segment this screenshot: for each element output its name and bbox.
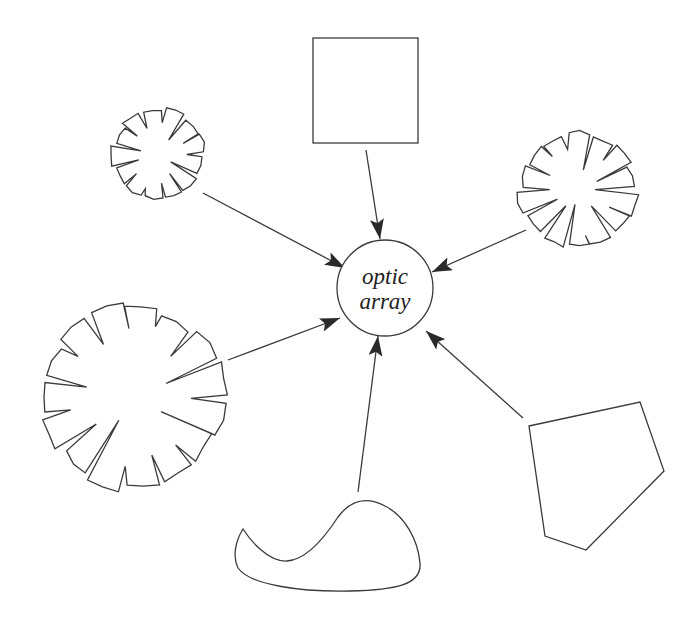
- node-square: [313, 38, 418, 143]
- node-burst-right: [517, 130, 639, 247]
- burst-bottom-left-shape: [43, 303, 228, 492]
- node-blob: [235, 501, 420, 592]
- burst-top-left-shape: [111, 108, 204, 200]
- edge-blob-to-optic-array: [358, 336, 378, 492]
- edge-burst-top-left-to-optic-array: [203, 193, 345, 268]
- edge-pentagon-to-optic-array: [426, 331, 523, 418]
- node-pentagon: [529, 402, 664, 550]
- blob-shape: [235, 501, 420, 592]
- node-burst-bottom-left: [43, 303, 228, 492]
- pentagon-shape: [529, 402, 664, 550]
- node-optic-array: optic array: [337, 240, 433, 336]
- square-shape: [313, 38, 418, 143]
- edge-burst-bottom-left-to-optic-array: [228, 318, 340, 360]
- node-burst-top-left: [111, 108, 204, 200]
- edge-square-to-optic-array: [366, 150, 380, 239]
- diagram-canvas: optic array: [0, 0, 693, 628]
- edge-burst-right-to-optic-array: [432, 230, 526, 272]
- optic-array-label-line-2: array: [359, 289, 411, 314]
- burst-right-shape: [517, 130, 639, 247]
- optic-array-label-line-1: optic: [362, 264, 408, 289]
